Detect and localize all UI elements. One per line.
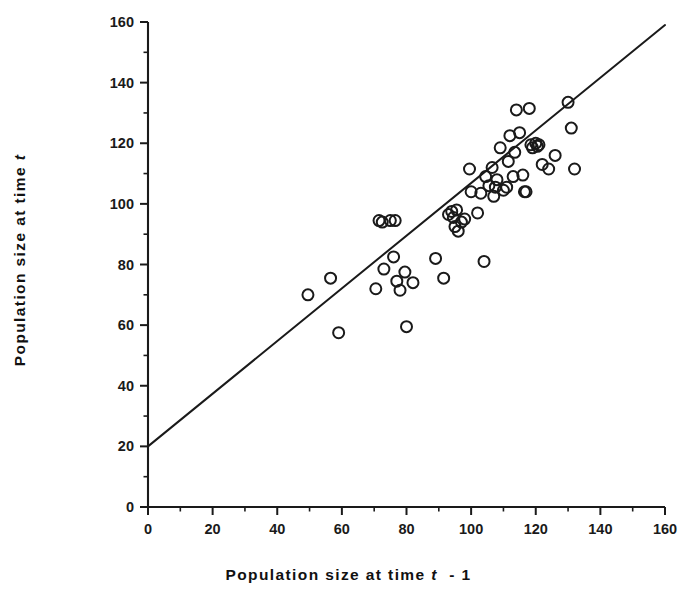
data-point-marker (325, 273, 336, 284)
data-point-marker (501, 182, 512, 193)
y-tick-label: 120 (110, 135, 134, 151)
data-point-marker (487, 162, 498, 173)
data-point-marker (370, 283, 381, 294)
data-point-marker (378, 264, 389, 275)
data-point-marker (511, 104, 522, 115)
y-tick-label: 60 (118, 317, 134, 333)
data-point-marker (438, 273, 449, 284)
data-point-marker (401, 321, 412, 332)
data-point-marker (566, 123, 577, 134)
data-point-marker (569, 164, 580, 175)
data-point-marker (550, 150, 561, 161)
data-point-marker (472, 207, 483, 218)
scatter-plot-figure: 0204060801001201401600204060801001201401… (0, 0, 697, 606)
x-axis-label-prefix: Population size at time (225, 566, 425, 583)
y-tick-label: 80 (118, 257, 134, 273)
x-tick-label: 120 (524, 521, 548, 537)
tick-labels-group: 0204060801001201401600204060801001201401… (110, 14, 677, 537)
x-tick-label: 40 (269, 521, 285, 537)
x-tick-label: 100 (459, 521, 483, 537)
data-point-marker (407, 277, 418, 288)
regression-line (148, 25, 665, 446)
regression-line-path (148, 25, 665, 446)
y-tick-label: 0 (126, 499, 134, 515)
y-tick-label: 20 (118, 438, 134, 454)
data-point-marker (430, 253, 441, 264)
y-tick-label: 40 (118, 378, 134, 394)
data-points-group (302, 97, 580, 338)
axes-group (140, 22, 665, 515)
y-tick-label: 140 (110, 75, 134, 91)
y-axis-label-italic-t: t (11, 154, 28, 161)
y-axis-label-prefix: Population size at time (11, 166, 28, 366)
y-tick-label: 160 (110, 14, 134, 30)
data-point-marker (524, 103, 535, 114)
data-point-marker (333, 327, 344, 338)
data-point-marker (491, 174, 502, 185)
data-point-marker (302, 289, 313, 300)
x-tick-label: 20 (205, 521, 221, 537)
y-axis-label: Population size at time t (11, 154, 29, 366)
x-tick-label: 0 (144, 521, 152, 537)
y-axis-label-container: Population size at time t (0, 0, 40, 520)
y-tick-label: 100 (110, 196, 134, 212)
x-axis-label: Population size at time t - 1 (0, 566, 697, 584)
x-axis-label-suffix: - 1 (449, 566, 471, 583)
data-point-marker (464, 164, 475, 175)
data-point-marker (399, 267, 410, 278)
x-tick-label: 160 (653, 521, 677, 537)
x-tick-label: 60 (334, 521, 350, 537)
data-point-marker (563, 97, 574, 108)
data-point-marker (514, 127, 525, 138)
data-point-marker (495, 142, 506, 153)
data-point-marker (388, 251, 399, 262)
data-point-marker (459, 214, 470, 225)
data-point-marker (479, 256, 490, 267)
x-tick-label: 140 (588, 521, 612, 537)
plot-canvas: 0204060801001201401600204060801001201401… (0, 0, 697, 606)
x-tick-label: 80 (398, 521, 414, 537)
